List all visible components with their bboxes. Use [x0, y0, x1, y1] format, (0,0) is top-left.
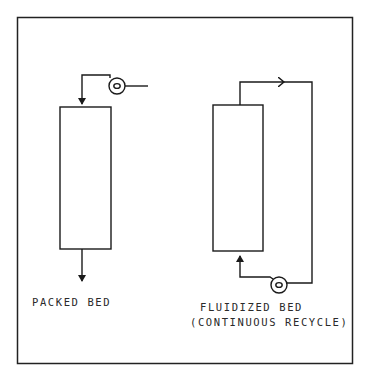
packed-bed-column — [60, 107, 111, 249]
fluidized-bed-system: FLUIDIZED BED (CONTINUOUS RECYCLE) — [190, 82, 348, 328]
fluidized-bed-pump-icon — [271, 277, 287, 293]
fluidized-bed-label: FLUIDIZED BED — [200, 301, 303, 313]
fluidized-bed-column — [213, 105, 263, 251]
fluidized-bed-inlet-arrow — [240, 256, 273, 279]
packed-bed-inlet-arrow — [82, 75, 110, 104]
packed-bed-label: PACKED BED — [32, 296, 111, 308]
fluidized-bed-recycle-arrow — [240, 82, 284, 105]
bioreactor-diagram: PACKED BED FLUIDIZED BED (CONTINUOUS REC… — [0, 0, 371, 378]
packed-bed-system: PACKED BED — [32, 75, 148, 308]
fluidized-bed-recycle-loop — [282, 82, 312, 283]
fluidized-bed-sublabel: (CONTINUOUS RECYCLE) — [190, 316, 348, 328]
packed-bed-pump-icon — [109, 78, 125, 94]
